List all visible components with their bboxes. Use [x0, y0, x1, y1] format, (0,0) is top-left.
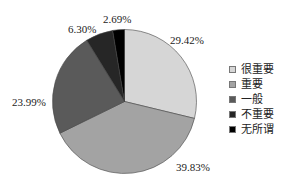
legend-swatch-icon	[229, 96, 236, 103]
legend-item-very-important: 很重要	[229, 62, 274, 77]
legend-label: 无所谓	[241, 124, 274, 136]
legend-swatch-icon	[229, 81, 236, 88]
legend-swatch-icon	[229, 111, 236, 118]
pct-label-important: 39.83%	[176, 161, 210, 173]
legend-swatch-icon	[229, 66, 236, 73]
legend-item-neutral: 一般	[229, 92, 274, 107]
pct-label-very-important: 29.42%	[170, 34, 204, 46]
legend-item-not-important: 不重要	[229, 107, 274, 122]
legend-item-important: 重要	[229, 77, 274, 92]
legend-label: 不重要	[241, 109, 274, 121]
pct-label-neutral: 23.99%	[12, 96, 46, 108]
chart-legend: 很重要 重要 一般 不重要 无所谓	[229, 62, 274, 137]
pct-label-not-important: 6.30%	[68, 23, 96, 35]
legend-item-indifferent: 无所谓	[229, 122, 274, 137]
pct-label-indifferent: 2.69%	[103, 13, 131, 25]
legend-label: 重要	[241, 79, 263, 91]
legend-label: 一般	[241, 94, 263, 106]
legend-label: 很重要	[241, 64, 274, 76]
legend-swatch-icon	[229, 126, 236, 133]
